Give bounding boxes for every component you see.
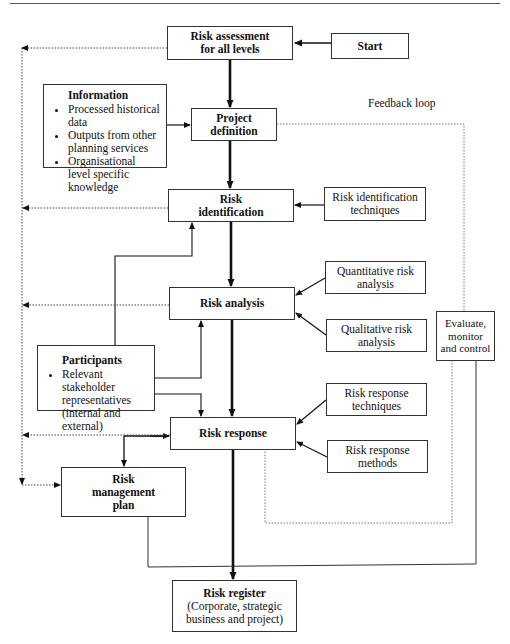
node-risk-response[interactable]: Risk response xyxy=(170,417,296,450)
node-risk-register[interactable]: Risk register (Corporate, strategic busi… xyxy=(172,580,297,632)
node-project-definition-line1: Project xyxy=(216,112,252,125)
node-response-techniques-line1: Risk response xyxy=(344,387,408,400)
node-qualitative-risk-analysis[interactable]: Qualitative risk analysis xyxy=(326,319,427,352)
node-risk-assessment-line2: for all levels xyxy=(200,43,259,56)
node-risk-management-plan[interactable]: Risk management plan xyxy=(61,467,186,517)
node-project-definition[interactable]: Project definition xyxy=(191,108,277,141)
node-risk-management-plan-line2: management xyxy=(92,486,155,499)
node-evaluate-monitor-control[interactable]: Evaluate, monitor and control xyxy=(436,311,495,361)
edge-resptech-to-response xyxy=(297,400,326,424)
node-risk-assessment[interactable]: Risk assessment for all levels xyxy=(167,26,293,60)
node-risk-analysis[interactable]: Risk analysis xyxy=(169,287,295,320)
node-risk-response-methods[interactable]: Risk response methods xyxy=(327,440,428,473)
node-risk-assessment-line1: Risk assessment xyxy=(191,30,270,43)
node-participants-item: Relevant stakeholder representatives (in… xyxy=(62,368,148,433)
node-start-label: Start xyxy=(358,40,383,53)
edge-participants-to-response xyxy=(155,394,201,416)
node-quantitative-line2: analysis xyxy=(357,278,394,291)
node-risk-register-line2: business and project) xyxy=(186,613,283,626)
node-information-item: Outputs from other planning services xyxy=(68,129,160,155)
node-risk-management-plan-line1: Risk xyxy=(112,473,134,486)
node-qualitative-line2: analysis xyxy=(358,336,395,349)
node-risk-identification[interactable]: Risk identification xyxy=(168,189,294,222)
node-risk-identification-line2: identification xyxy=(198,206,263,219)
node-risk-analysis-label: Risk analysis xyxy=(200,297,264,310)
node-information-item: Processed historical data xyxy=(68,103,160,129)
node-information-title: Information xyxy=(52,89,128,102)
node-information[interactable]: Information Processed historical data Ou… xyxy=(43,84,167,168)
node-participants[interactable]: Participants Relevant stakeholder repres… xyxy=(37,345,155,411)
node-response-methods-line2: methods xyxy=(358,457,397,470)
edge-quant-to-analysis xyxy=(296,278,325,295)
edge-respmethods-to-response xyxy=(297,442,327,457)
edge-participants-to-identification xyxy=(115,223,192,345)
node-evaluate-line3: and control xyxy=(441,342,491,355)
node-risk-register-title: Risk register xyxy=(203,587,266,600)
node-risk-register-line1: (Corporate, strategic xyxy=(187,600,282,613)
edge-participants-to-analysis xyxy=(155,321,201,378)
node-response-methods-line1: Risk response xyxy=(345,444,409,457)
node-evaluate-line2: monitor xyxy=(448,330,483,343)
edge-response-to-plan xyxy=(124,436,169,466)
node-information-list: Processed historical data Outputs from o… xyxy=(52,103,160,194)
node-participants-title: Participants xyxy=(46,354,122,367)
node-start[interactable]: Start xyxy=(331,33,409,59)
node-information-item: Organisational level specific knowledge xyxy=(68,155,160,194)
node-risk-id-techniques-line2: techniques xyxy=(350,204,399,217)
node-quantitative-risk-analysis[interactable]: Quantitative risk analysis xyxy=(325,261,426,294)
node-risk-id-techniques-line1: Risk identification xyxy=(332,191,417,204)
node-project-definition-line2: definition xyxy=(210,125,257,138)
node-risk-identification-techniques[interactable]: Risk identification techniques xyxy=(324,187,426,221)
node-participants-list: Relevant stakeholder representatives (in… xyxy=(46,368,148,433)
node-risk-response-label: Risk response xyxy=(199,427,267,440)
feedback-loop-label: Feedback loop xyxy=(368,97,435,109)
risk-management-flowchart: Feedback loop Risk assessment for all le… xyxy=(0,0,510,644)
node-risk-management-plan-line3: plan xyxy=(113,499,135,512)
edge-qual-to-analysis xyxy=(296,313,326,335)
node-qualitative-line1: Qualitative risk xyxy=(341,323,412,336)
node-risk-identification-line1: Risk xyxy=(220,193,242,206)
node-quantitative-line1: Quantitative risk xyxy=(337,265,414,278)
node-evaluate-line1: Evaluate, xyxy=(445,317,486,330)
node-risk-response-techniques[interactable]: Risk response techniques xyxy=(326,383,427,416)
node-response-techniques-line2: techniques xyxy=(352,400,401,413)
